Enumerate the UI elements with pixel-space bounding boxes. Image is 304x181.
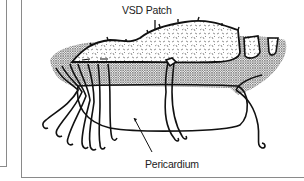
vsd-patch-label: VSD Patch [122, 4, 172, 16]
vsd-patch-illustration [0, 0, 304, 181]
pericardium-label: Pericardium [145, 158, 199, 170]
pericardium-leader-line [134, 118, 152, 152]
pericardium-loop [77, 85, 247, 132]
vsd-patch-shape [72, 21, 240, 63]
pledget-1 [244, 36, 260, 58]
pledget-2 [268, 38, 278, 55]
